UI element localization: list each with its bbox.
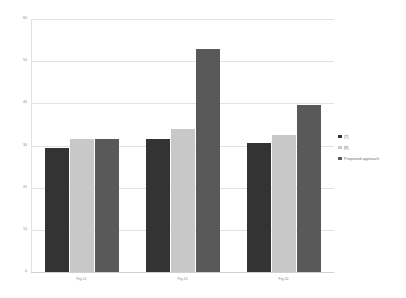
- bar-groups: Fig.12Fig.13Fig.14: [31, 19, 334, 272]
- legend-item[interactable]: Proposed approach: [338, 153, 404, 164]
- bar-group: Fig.13: [132, 19, 233, 272]
- legend-swatch-icon: [338, 135, 342, 139]
- x-tick-label: Fig.13: [178, 278, 188, 282]
- y-tick-label-20: 20: [23, 186, 27, 190]
- y-tick-label-30: 30: [23, 144, 27, 148]
- x-tick-label: Fig.12: [77, 278, 87, 282]
- bar-group: Fig.12: [31, 19, 132, 272]
- bar[interactable]: [247, 143, 271, 272]
- legend-label: Proposed approach: [344, 157, 379, 161]
- bar[interactable]: [171, 129, 195, 272]
- y-tick-label-50: 50: [23, 59, 27, 63]
- chart-legend: [7][8]Proposed approach: [338, 131, 404, 164]
- bar-group: Fig.14: [233, 19, 334, 272]
- gridline-0: [31, 272, 334, 273]
- bar[interactable]: [146, 139, 170, 272]
- legend-label: [8]: [344, 146, 348, 150]
- bar[interactable]: [196, 49, 220, 272]
- bar[interactable]: [272, 135, 296, 272]
- legend-item[interactable]: [7]: [338, 131, 404, 142]
- legend-item[interactable]: [8]: [338, 142, 404, 153]
- bar[interactable]: [95, 139, 119, 272]
- bar[interactable]: [45, 148, 69, 272]
- legend-swatch-icon: [338, 157, 342, 161]
- bar-chart: 0102030405060 Fig.12Fig.13Fig.14 [7][8]P…: [0, 0, 406, 298]
- y-tick-label-40: 40: [23, 102, 27, 106]
- legend-swatch-icon: [338, 146, 342, 150]
- y-tick-label-10: 10: [23, 228, 27, 232]
- y-tick-label-0: 0: [25, 270, 27, 274]
- plot-area: 0102030405060 Fig.12Fig.13Fig.14: [31, 19, 334, 272]
- y-tick-label-60: 60: [23, 17, 27, 21]
- x-tick-label: Fig.14: [279, 278, 289, 282]
- bar[interactable]: [70, 139, 94, 272]
- bar[interactable]: [297, 105, 321, 272]
- legend-label: [7]: [344, 135, 348, 139]
